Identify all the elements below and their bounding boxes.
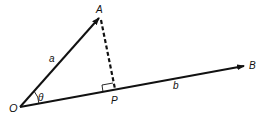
vector-a xyxy=(20,18,99,107)
vector-projection-diagram: A a θ O P b B xyxy=(0,0,264,118)
label-a: a xyxy=(49,54,55,64)
label-B: B xyxy=(249,61,256,71)
label-theta: θ xyxy=(38,93,43,103)
perpendicular-ap xyxy=(101,20,115,89)
label-O: O xyxy=(9,103,18,114)
label-A: A xyxy=(96,5,103,15)
vector-b xyxy=(20,66,244,107)
label-b: b xyxy=(173,81,179,91)
label-P: P xyxy=(111,96,118,106)
